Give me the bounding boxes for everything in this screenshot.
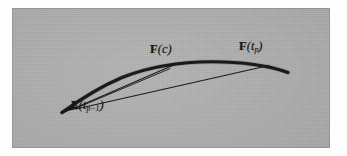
label-f-of-c: F(c) xyxy=(150,43,172,56)
label-fc-close: ) xyxy=(167,42,171,56)
label-ftp-function: F xyxy=(239,39,247,53)
label-ftp1-close: ) xyxy=(99,98,103,112)
figure-root: F(c) F(tp) F(tp−1) xyxy=(0,0,347,156)
label-f-of-t-p-minus-1: F(tp−1) xyxy=(71,99,104,112)
label-ftp1-function: F xyxy=(71,98,79,112)
label-f-of-t-p: F(tp) xyxy=(239,40,262,53)
curve-diagram xyxy=(0,0,347,156)
label-ftp1-subscript: p−1 xyxy=(86,104,99,113)
label-ftp-close: ) xyxy=(258,39,262,53)
label-fc-function: F xyxy=(150,42,158,56)
